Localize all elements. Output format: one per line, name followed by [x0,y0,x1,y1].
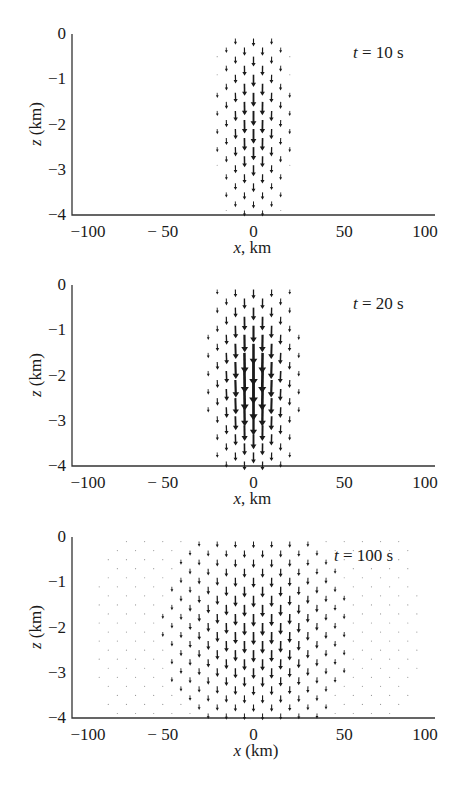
x-tick-label: 100 [400,726,450,743]
time-label: t = 100 s [334,547,393,564]
y-tick-label: −3 [36,664,66,681]
y-tick-label: −2 [36,619,66,636]
velocity-arrows [99,541,418,720]
x-tick-label: 50 [319,726,369,743]
x-axis-label: x (km) [234,742,279,759]
y-tick-label: −4 [36,709,66,726]
x-tick-label: − 50 [138,726,188,743]
quiver-plot [0,0,462,720]
y-tick-label: 0 [36,528,66,545]
x-tick-label: −100 [63,726,113,743]
panel-t100: z (km)0−1−2−3−4−100− 50050100x (km)t = 1… [0,0,462,786]
y-tick-label: −1 [36,573,66,590]
